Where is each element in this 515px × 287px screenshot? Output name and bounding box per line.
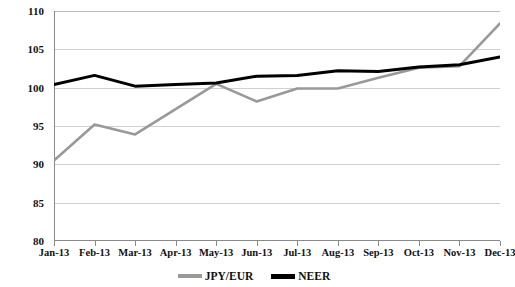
x-tick-label-Oct-13: Oct-13 — [404, 247, 434, 259]
x-tick-Aug-13 — [338, 241, 339, 246]
x-tick-label-Jun-13: Jun-13 — [241, 247, 272, 259]
y-tick-label-90: 90 — [33, 159, 44, 170]
x-tick-Nov-13 — [459, 241, 460, 246]
series-line-neer — [54, 57, 500, 86]
x-tick-Jun-13 — [257, 241, 258, 246]
legend-swatch-icon — [271, 274, 295, 279]
x-tick-Sep-13 — [378, 241, 379, 246]
x-tick-label-Nov-13: Nov-13 — [443, 247, 475, 259]
y-tick-label-100: 100 — [28, 82, 45, 93]
legend-item-neer[interactable]: NEER — [271, 270, 330, 282]
x-tick-May-13 — [216, 241, 217, 246]
y-tick-label-110: 110 — [28, 6, 44, 17]
legend-label: NEER — [298, 270, 330, 282]
series-line-jpy-eur — [54, 23, 500, 160]
x-tick-Mar-13 — [135, 241, 136, 246]
x-axis-labels: Jan-13Feb-13Mar-13Apr-13May-13Jun-13Jul-… — [54, 247, 500, 263]
series-layer — [54, 11, 500, 241]
x-tick-label-Dec-13: Dec-13 — [485, 247, 515, 259]
y-tick-label-80: 80 — [33, 236, 44, 247]
legend-item-jpy-eur[interactable]: JPY/EUR — [178, 270, 254, 282]
x-tick-Jan-13 — [54, 241, 55, 246]
x-tick-Feb-13 — [95, 241, 96, 246]
legend-swatch-icon — [178, 274, 202, 278]
x-tick-label-Apr-13: Apr-13 — [160, 247, 192, 259]
x-tick-Apr-13 — [176, 241, 177, 246]
y-tick-label-95: 95 — [33, 121, 44, 132]
x-tick-label-Sep-13: Sep-13 — [363, 247, 393, 259]
y-tick-label-105: 105 — [28, 44, 45, 55]
x-tick-label-Jul-13: Jul-13 — [283, 247, 311, 259]
legend-label: JPY/EUR — [205, 270, 254, 282]
x-tick-Jul-13 — [297, 241, 298, 246]
y-tick-label-85: 85 — [33, 197, 44, 208]
y-axis-labels: 80859095100105110 — [0, 11, 48, 241]
chart-legend: JPY/EURNEER — [0, 267, 508, 285]
x-tick-Dec-13 — [500, 241, 501, 246]
x-tick-label-May-13: May-13 — [199, 247, 233, 259]
x-tick-label-Aug-13: Aug-13 — [321, 247, 354, 259]
x-tick-label-Feb-13: Feb-13 — [79, 247, 110, 259]
x-tick-Oct-13 — [419, 241, 420, 246]
x-tick-label-Mar-13: Mar-13 — [118, 247, 151, 259]
x-tick-label-Jan-13: Jan-13 — [39, 247, 69, 259]
